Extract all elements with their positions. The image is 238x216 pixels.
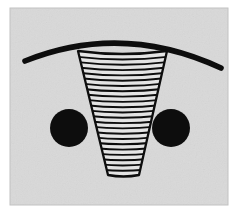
- left-circle: [50, 109, 88, 147]
- right-circle: [152, 109, 190, 147]
- figure-canvas: Abstract line drawing: striped cone flan…: [0, 0, 238, 216]
- figure-root: Abstract line drawing: striped cone flan…: [0, 0, 238, 216]
